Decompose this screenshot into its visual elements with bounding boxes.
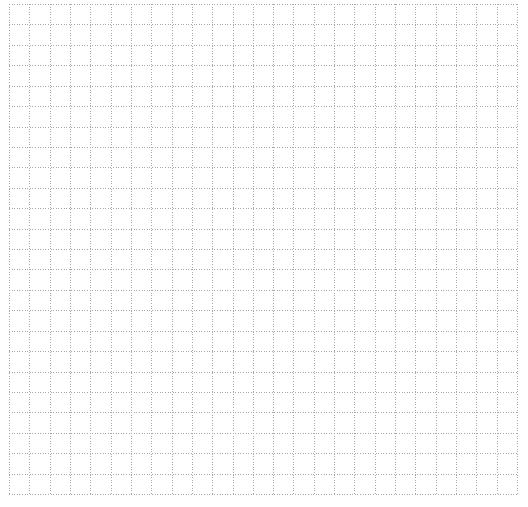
dotted-grid: [0, 0, 528, 507]
grid-background: [0, 0, 528, 507]
